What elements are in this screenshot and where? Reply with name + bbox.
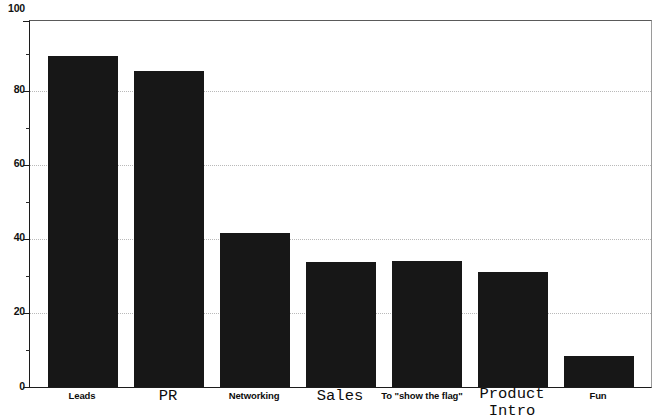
gridline-40 — [30, 239, 651, 240]
bar-sales — [306, 262, 376, 387]
bar-chart-figure: 100 80 60 40 20 0 Leads PR — [0, 0, 658, 415]
y-tick-40 — [23, 239, 30, 240]
y-tick-minor-70 — [26, 128, 31, 129]
y-axis-tick-label: 80 — [1, 84, 25, 95]
y-axis-label-group: 100 80 60 40 20 0 — [0, 0, 25, 415]
y-tick-minor-90 — [26, 54, 31, 55]
gridline-80 — [30, 91, 651, 92]
bar-fun — [564, 356, 634, 387]
x-axis-label-fun: Fun — [538, 391, 658, 401]
y-tick-minor-50 — [26, 202, 31, 203]
y-axis-tick-label: 20 — [1, 306, 25, 317]
bar-leads — [48, 56, 118, 387]
y-tick-100 — [23, 21, 30, 22]
y-axis-tick-label: 100 — [1, 3, 25, 14]
y-axis-tick-label: 40 — [1, 232, 25, 243]
y-tick-80 — [23, 91, 30, 92]
y-axis-tick-label: 0 — [1, 381, 25, 392]
y-tick-60 — [23, 165, 30, 166]
bar-product-intro — [478, 272, 548, 387]
y-tick-minor-10 — [26, 350, 31, 351]
y-axis-tick-label: 60 — [1, 158, 25, 169]
y-tick-20 — [23, 313, 30, 314]
bar-show-the-flag — [392, 261, 462, 387]
bar-networking — [220, 233, 290, 387]
y-tick-0 — [23, 387, 30, 388]
y-tick-minor-30 — [26, 276, 31, 277]
plot-area — [29, 20, 652, 388]
gridline-60 — [30, 165, 651, 166]
bar-pr — [134, 71, 204, 387]
